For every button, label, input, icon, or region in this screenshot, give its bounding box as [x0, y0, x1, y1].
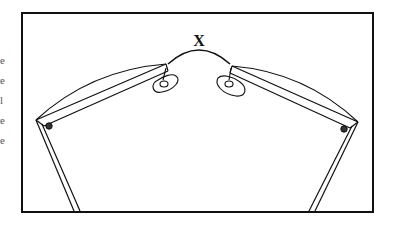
right-temple — [309, 122, 358, 211]
left-lens-rim — [36, 64, 168, 126]
bridge-label: X — [193, 32, 205, 49]
right-lens-rim — [230, 66, 358, 128]
right-hinge-screw-icon — [341, 126, 347, 132]
right-nose-pad — [217, 68, 245, 96]
eyeglasses-diagram: X — [0, 0, 396, 229]
left-temple — [36, 120, 80, 211]
bridge — [168, 50, 230, 64]
left-nose-pad — [153, 68, 178, 92]
left-hinge-screw-icon — [46, 123, 52, 129]
